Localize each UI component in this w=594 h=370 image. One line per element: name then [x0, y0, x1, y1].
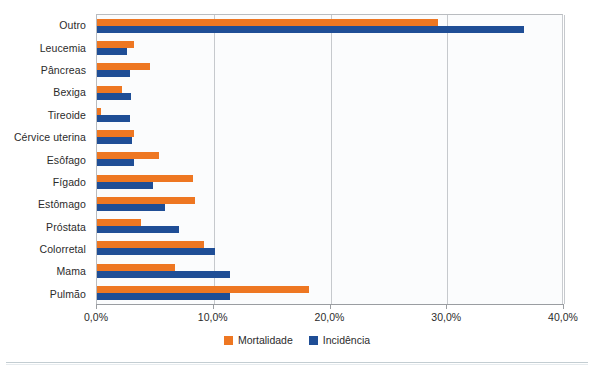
legend-label: Mortalidade — [238, 334, 293, 346]
bar-mortalidade[interactable] — [97, 86, 122, 93]
y-axis-label: Tireoide — [0, 104, 92, 126]
bar-mortalidade[interactable] — [97, 130, 134, 137]
bar-incidencia[interactable] — [97, 226, 179, 233]
x-axis-tick-label: 20,0% — [315, 311, 345, 323]
bar-group — [97, 237, 562, 259]
y-axis-label: Fígado — [0, 171, 92, 193]
bar-incidencia[interactable] — [97, 248, 215, 255]
y-axis-label: Pâncreas — [0, 59, 92, 81]
bar-mortalidade[interactable] — [97, 41, 134, 48]
bar-incidencia[interactable] — [97, 48, 127, 55]
bar-group — [97, 15, 562, 37]
bar-group — [97, 193, 562, 215]
legend-swatch-icon — [224, 336, 233, 345]
bar-mortalidade[interactable] — [97, 19, 438, 26]
bar-mortalidade[interactable] — [97, 219, 141, 226]
bottom-divider-highlight — [6, 364, 588, 365]
bar-group — [97, 59, 562, 81]
y-axis-label: Cérvice uterina — [0, 126, 92, 148]
bars-layer — [97, 15, 562, 304]
bar-incidencia[interactable] — [97, 182, 153, 189]
legend-item[interactable]: Mortalidade — [224, 334, 293, 346]
x-axis-tick-label: 10,0% — [198, 311, 228, 323]
bar-group — [97, 282, 562, 304]
bar-mortalidade[interactable] — [97, 241, 204, 248]
y-axis-label: Esôfago — [0, 148, 92, 170]
bar-mortalidade[interactable] — [97, 197, 195, 204]
bar-mortalidade[interactable] — [97, 63, 150, 70]
bar-incidencia[interactable] — [97, 293, 230, 300]
bar-incidencia[interactable] — [97, 70, 130, 77]
x-axis-tick — [330, 305, 331, 309]
bar-incidencia[interactable] — [97, 115, 130, 122]
bar-incidencia[interactable] — [97, 159, 134, 166]
bar-group — [97, 126, 562, 148]
chart-legend: MortalidadeIncidência — [0, 334, 594, 346]
x-axis-tick — [563, 305, 564, 309]
y-axis-label: Estômago — [0, 193, 92, 215]
bar-mortalidade[interactable] — [97, 175, 193, 182]
y-axis-label: Bexiga — [0, 81, 92, 103]
y-axis-label: Leucemia — [0, 36, 92, 58]
bar-mortalidade[interactable] — [97, 108, 101, 115]
x-axis-tick — [96, 305, 97, 309]
x-axis-tick — [446, 305, 447, 309]
legend-label: Incidência — [323, 334, 370, 346]
bar-chart-figure: OutroLeucemiaPâncreasBexigaTireoideCérvi… — [0, 0, 594, 370]
gridline — [564, 15, 565, 304]
legend-swatch-icon — [309, 336, 318, 345]
bar-incidencia[interactable] — [97, 26, 524, 33]
bar-group — [97, 37, 562, 59]
bar-mortalidade[interactable] — [97, 152, 159, 159]
x-axis-tick-label: 30,0% — [431, 311, 461, 323]
bar-incidencia[interactable] — [97, 93, 131, 100]
bar-group — [97, 82, 562, 104]
y-axis-label: Próstata — [0, 216, 92, 238]
bar-mortalidade[interactable] — [97, 286, 309, 293]
bar-group — [97, 171, 562, 193]
bar-mortalidade[interactable] — [97, 264, 175, 271]
bar-group — [97, 215, 562, 237]
y-axis-category-labels: OutroLeucemiaPâncreasBexigaTireoideCérvi… — [0, 14, 92, 305]
x-axis-tick — [213, 305, 214, 309]
x-axis-tick-label: 0,0% — [84, 311, 108, 323]
bar-group — [97, 148, 562, 170]
bar-incidencia[interactable] — [97, 204, 165, 211]
plot-area — [96, 14, 563, 305]
bar-incidencia[interactable] — [97, 271, 230, 278]
x-axis-tick-label: 40,0% — [548, 311, 578, 323]
bar-group — [97, 104, 562, 126]
y-axis-label: Pulmão — [0, 283, 92, 305]
y-axis-label: Mama — [0, 260, 92, 282]
bottom-divider — [6, 362, 588, 363]
bar-incidencia[interactable] — [97, 137, 132, 144]
bar-group — [97, 260, 562, 282]
y-axis-label: Outro — [0, 14, 92, 36]
y-axis-label: Colorretal — [0, 238, 92, 260]
legend-item[interactable]: Incidência — [309, 334, 370, 346]
